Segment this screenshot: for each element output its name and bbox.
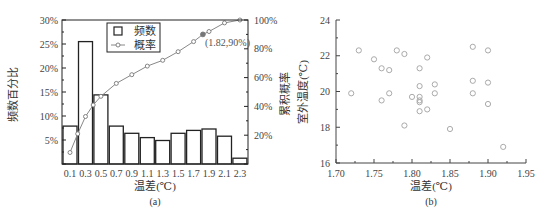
legend-label-frequency: 频数: [134, 24, 156, 37]
x-tick-label: 1.95: [517, 168, 535, 179]
x-tick-label: 0.3: [79, 168, 92, 179]
x-axis-title-b: 温差(℃): [410, 179, 452, 193]
scatter-point: [387, 91, 392, 96]
x-tick-label: 1.3: [156, 168, 169, 179]
scatter-point: [501, 144, 506, 149]
chart-a-frequency-histogram: 5%10%15%20%25%30% 20%40%60%80%100% 0.10.…: [6, 15, 291, 209]
x-tick-label: 1.85: [441, 168, 459, 179]
y-right-tick-label: 60%: [254, 72, 272, 83]
scatter-point: [425, 55, 430, 60]
scatter-points: [349, 44, 506, 149]
scatter-point: [485, 80, 490, 85]
annotation-1-82-90: (1.82,90%): [205, 37, 250, 49]
x-tick-label: 1.90: [479, 168, 497, 179]
y-tick-label: 24: [320, 15, 330, 26]
scatter-point: [402, 123, 407, 128]
x-tick-label: 0.5: [95, 168, 108, 179]
line-point: [161, 58, 165, 62]
scatter-point: [417, 84, 422, 89]
y-right-tick-label: 20%: [254, 130, 272, 141]
line-point: [207, 30, 211, 34]
y-tick-label: 15%: [40, 87, 58, 98]
x-tick-label: 1.75: [365, 168, 383, 179]
line-point: [130, 73, 134, 77]
y-tick-label: 25%: [40, 39, 58, 50]
scatter-point: [470, 78, 475, 83]
y-axis-title-a-right: 累积概率: [278, 72, 291, 116]
line-point: [145, 64, 149, 68]
bar-1.1: [140, 138, 154, 164]
line-point: [84, 115, 88, 119]
line-point: [99, 94, 103, 98]
panel-a-caption: (a): [149, 196, 160, 208]
line-point: [223, 21, 227, 25]
y-axis-title-a-left: 频数百分比: [6, 67, 19, 122]
bar-2.1: [218, 136, 232, 164]
legend-a: 频数 概率: [107, 23, 160, 52]
scatter-point: [349, 91, 354, 96]
y-right-tick-label: 80%: [254, 43, 272, 54]
panel-b-caption: (b): [425, 196, 437, 208]
x-axis-a: 0.10.30.50.70.91.11.31.51.71.92.12.3: [64, 168, 246, 179]
x-tick-label: 1.1: [141, 168, 154, 179]
scatter-point: [432, 91, 437, 96]
bar-series-frequency: [63, 42, 247, 164]
axes-b: 16182022241.701.751.801.851.901.95: [320, 15, 535, 180]
x-tick-label: 2.3: [234, 168, 247, 179]
x-tick-label: 1.9: [203, 168, 216, 179]
scatter-point: [371, 57, 376, 62]
y-tick-label: 5%: [45, 135, 58, 146]
line-point: [91, 103, 95, 107]
scatter-point: [447, 126, 452, 131]
x-tick-label: 1.7: [187, 168, 200, 179]
y-tick-label: 20%: [40, 63, 58, 74]
y-right-tick-label: 100%: [254, 15, 277, 26]
bar-0.3: [79, 42, 93, 164]
x-tick-label: 1.80: [403, 168, 421, 179]
bar-0.1: [63, 126, 77, 164]
legend-marker-icon: [116, 43, 120, 47]
line-point: [114, 81, 118, 85]
bar-2.3: [233, 158, 247, 164]
bar-0.5: [94, 95, 108, 164]
line-point: [176, 50, 180, 54]
scatter-point: [425, 107, 430, 112]
legend-bar-swatch-icon: [114, 27, 122, 35]
scatter-point: [394, 48, 399, 53]
scatter-point: [417, 109, 422, 114]
x-tick-label: 2.1: [218, 168, 231, 179]
y-tick-label: 30%: [40, 15, 58, 26]
line-point: [192, 40, 196, 44]
line-point: [68, 151, 72, 155]
x-tick-label: 0.9: [126, 168, 139, 179]
chart-b-scatter: 16182022241.701.751.801.851.901.95 温差(℃)…: [296, 15, 535, 209]
scatter-point: [432, 82, 437, 87]
line-point: [76, 132, 80, 136]
scatter-point: [417, 66, 422, 71]
y-tick-label: 20: [320, 86, 330, 97]
bar-1.5: [171, 133, 185, 164]
scatter-point: [387, 68, 392, 73]
y-tick-label: 16: [320, 158, 330, 169]
bar-1.7: [187, 130, 201, 164]
y-axis-title-b: 室外温度(℃): [296, 60, 310, 124]
y-tick-label: 10%: [40, 111, 58, 122]
scatter-point: [402, 51, 407, 56]
x-tick-label: 0.7: [110, 168, 123, 179]
bar-1.3: [156, 141, 170, 165]
figure: 5%10%15%20%25%30% 20%40%60%80%100% 0.10.…: [0, 0, 552, 221]
bar-1.9: [202, 129, 216, 164]
y-right-tick-label: 40%: [254, 101, 272, 112]
bar-0.7: [109, 126, 123, 164]
legend-label-probability: 概率: [134, 38, 156, 51]
x-tick-label: 1.5: [172, 168, 185, 179]
bar-0.9: [125, 133, 139, 164]
y-tick-label: 18: [320, 122, 330, 133]
scatter-point: [409, 94, 414, 99]
scatter-point: [485, 101, 490, 106]
x-tick-label: 0.1: [64, 168, 77, 179]
scatter-point: [470, 91, 475, 96]
x-tick-label: 1.70: [327, 168, 345, 179]
scatter-point: [470, 44, 475, 49]
scatter-point: [379, 66, 384, 71]
